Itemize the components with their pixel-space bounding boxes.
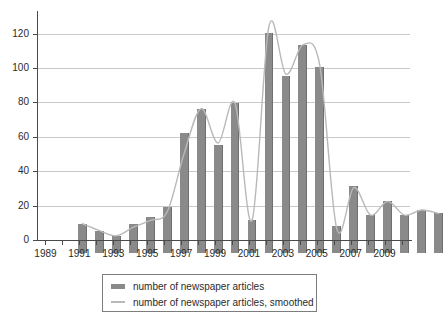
x-axis-tick-mark xyxy=(232,241,233,245)
y-axis-tick-mark xyxy=(33,68,37,69)
smoothed-line-path xyxy=(82,21,438,236)
bar-swatch-icon xyxy=(111,284,125,289)
y-axis-tick-mark xyxy=(33,206,37,207)
x-axis-tick-mark xyxy=(96,241,97,245)
x-axis-tick-label: 2009 xyxy=(373,248,395,259)
y-axis-tick-label: 40 xyxy=(18,166,29,176)
y-axis-tick-mark xyxy=(33,137,37,138)
x-axis-tick-mark xyxy=(198,241,199,245)
x-axis-tick-mark xyxy=(249,241,250,245)
line-swatch-icon xyxy=(111,301,125,303)
x-axis-tick-mark xyxy=(402,241,403,245)
x-axis-tick-mark xyxy=(130,241,131,245)
x-axis-tick-mark xyxy=(215,241,216,245)
x-axis-tick-label: 1993 xyxy=(102,248,124,259)
x-axis xyxy=(37,240,412,241)
x-axis-tick-mark xyxy=(368,241,369,245)
y-axis-tick-mark xyxy=(33,34,37,35)
x-axis-tick-mark xyxy=(283,241,284,245)
x-axis-tick-mark xyxy=(300,241,301,245)
x-axis-tick-mark xyxy=(79,241,80,245)
x-axis-tick-mark xyxy=(113,241,114,245)
x-axis-tick-label: 1989 xyxy=(34,248,56,259)
x-axis-tick-mark xyxy=(164,241,165,245)
legend: number of newspaper articles number of n… xyxy=(102,274,317,312)
x-axis-tick-mark xyxy=(351,241,352,245)
x-axis-tick-label: 2003 xyxy=(272,248,294,259)
x-axis-tick-mark xyxy=(266,241,267,245)
x-axis-tick-mark xyxy=(45,241,46,245)
x-axis-tick-mark xyxy=(147,241,148,245)
y-axis-tick-label: 0 xyxy=(23,235,29,245)
y-axis-tick-mark xyxy=(33,102,37,103)
legend-item-bars: number of newspaper articles xyxy=(103,278,316,294)
y-axis-tick-labels: 020406080100120 xyxy=(0,0,33,325)
x-axis-tick-label: 2005 xyxy=(306,248,328,259)
x-axis-tick-label: 1995 xyxy=(136,248,158,259)
x-axis-tick-mark xyxy=(385,241,386,245)
x-axis-tick-mark xyxy=(62,241,63,245)
y-axis-tick-label: 80 xyxy=(18,97,29,107)
plot-area xyxy=(37,13,410,240)
y-axis-tick-label: 120 xyxy=(12,29,29,39)
y-axis-tick-mark xyxy=(33,240,37,241)
legend-item-label: number of newspaper articles xyxy=(133,281,264,292)
y-axis-tick-label: 20 xyxy=(18,201,29,211)
y-axis-tick-mark xyxy=(33,171,37,172)
x-axis-tick-mark xyxy=(181,241,182,245)
x-axis-tick-label: 1997 xyxy=(170,248,192,259)
x-axis-tick-label: 1999 xyxy=(204,248,226,259)
smoothed-line-series xyxy=(74,26,447,253)
x-axis-tick-mark xyxy=(317,241,318,245)
y-axis-tick-label: 60 xyxy=(18,132,29,142)
legend-item-smoothed: number of newspaper articles, smoothed xyxy=(103,294,316,310)
y-axis-tick-label: 100 xyxy=(12,63,29,73)
x-axis-tick-label: 2001 xyxy=(238,248,260,259)
y-axis xyxy=(37,11,38,241)
x-axis-tick-label: 1991 xyxy=(68,248,90,259)
legend-item-label: number of newspaper articles, smoothed xyxy=(133,297,314,308)
x-axis-tick-mark xyxy=(334,241,335,245)
x-axis-tick-label: 2007 xyxy=(340,248,362,259)
